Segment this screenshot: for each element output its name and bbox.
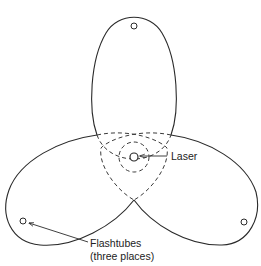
top-ellipse-outline: [92, 17, 177, 135]
flashtubes-label-line1: Flashtubes: [90, 237, 154, 250]
pump-cavity-diagram: [0, 0, 261, 266]
left-ellipse-outline: [6, 135, 134, 245]
flashtube-right: [241, 219, 247, 225]
laser-rod: [130, 153, 138, 161]
flashtube-top: [131, 23, 137, 29]
flashtubes-label: Flashtubes (three places): [90, 237, 154, 263]
flashtubes-label-line2: (three places): [90, 250, 154, 263]
flashtube-leader-arrow: [29, 223, 88, 242]
flashtube-left: [20, 218, 26, 224]
laser-label: Laser: [171, 150, 197, 163]
